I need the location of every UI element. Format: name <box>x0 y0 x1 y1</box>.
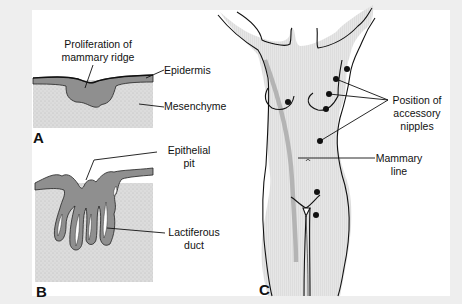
label-accessory-nipples: Position of accessory nipples <box>386 94 448 133</box>
label-lactiferous-duct-line1: Lactiferous <box>164 226 224 239</box>
panel-letter-b: B <box>36 284 47 299</box>
label-mammary-line: Mammary line <box>374 152 424 178</box>
label-mammary-line-line1: Mammary <box>374 152 424 165</box>
label-accessory-nipples-line1: Position of <box>386 94 448 107</box>
panel-letter-c: C <box>259 282 270 297</box>
label-accessory-nipples-line2: accessory <box>386 107 448 120</box>
label-proliferation-line1: Proliferation of <box>58 38 138 51</box>
panel-b-tissue <box>35 168 153 282</box>
label-proliferation: Proliferation of mammary ridge <box>58 38 138 64</box>
label-mesenchyme: Mesenchyme <box>164 100 226 113</box>
label-epithelial-pit-line1: Epithelial <box>158 144 220 157</box>
label-epithelial-pit-line2: pit <box>158 157 220 170</box>
label-mammary-line-line2: line <box>374 165 424 178</box>
label-lactiferous-duct-line2: duct <box>164 239 224 252</box>
label-epithelial-pit: Epithelial pit <box>158 144 220 170</box>
label-accessory-nipples-line3: nipples <box>386 120 448 133</box>
label-lactiferous-duct: Lactiferous duct <box>164 226 224 252</box>
label-epidermis: Epidermis <box>164 64 211 77</box>
label-proliferation-line2: mammary ridge <box>58 51 138 64</box>
panel-a-tissue <box>33 75 153 128</box>
panel-letter-a: A <box>33 130 44 145</box>
